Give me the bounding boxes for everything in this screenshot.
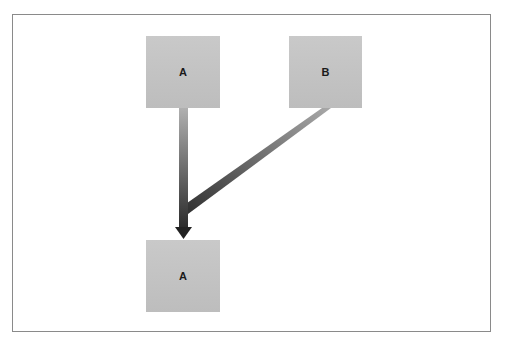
node-label: A [179,66,187,78]
edges-layer [0,0,506,345]
edge-a-to-a [179,108,188,228]
node-a-bottom: A [146,240,220,312]
node-b-top: B [289,36,362,108]
edge-b-to-a [180,108,331,214]
node-a-top: A [146,36,220,108]
node-label: A [179,270,187,282]
arrowhead-icon [175,227,192,239]
node-label: B [322,66,330,78]
